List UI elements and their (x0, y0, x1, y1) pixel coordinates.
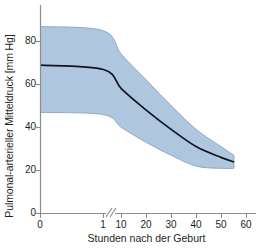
confidence-band (41, 26, 235, 168)
y-axis-ticks (36, 42, 40, 214)
axis-break-icon (106, 208, 116, 217)
chart-figure: Pulmonal-arterieller Mitteldruck [mm Hg]… (0, 0, 261, 252)
chart-canvas (0, 0, 261, 252)
